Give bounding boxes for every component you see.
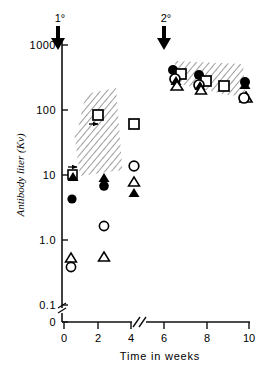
x-tick-6: 6 (161, 322, 167, 344)
y-tick-100: 100 (36, 104, 68, 116)
marker-open-circle (66, 262, 75, 271)
y-tick-1: 1.0 (39, 234, 68, 246)
x-axis: 0 2 4 6 8 10 Time in weeks (61, 317, 255, 362)
x-tick-label-2: 2 (95, 332, 101, 344)
data-point-group-week4 (129, 119, 140, 197)
marker-open-square (93, 110, 103, 120)
y-axis-title: Antibody liter (Kv) (14, 133, 27, 217)
data-point-group-week7 (168, 65, 186, 90)
secondary-immunization-arrow: 2° (157, 12, 171, 50)
hatched-band-primary-response (74, 88, 122, 176)
x-tick-2: 2 (95, 322, 101, 344)
marker-open-triangle (129, 177, 140, 186)
y-tick-label-1000: 1000 (30, 39, 56, 51)
marker-filled-circle (99, 181, 109, 191)
data-point-group-week1 (66, 170, 79, 272)
y-tick-label-0: 0 (49, 316, 56, 328)
marker-open-circle (129, 161, 139, 171)
marker-filled-triangle (99, 173, 110, 182)
x-tick-0: 0 (61, 322, 67, 344)
x-axis-title: Time in weeks (120, 350, 200, 362)
marker-open-triangle (66, 253, 77, 262)
y-tick-label-10: 10 (43, 169, 56, 181)
marker-open-circle (99, 221, 108, 230)
data-point-group-week9 (219, 81, 229, 91)
x-tick-8: 8 (204, 322, 210, 344)
y-tick-10: 10 (43, 169, 68, 181)
marker-filled-triangle (129, 188, 140, 197)
secondary-immunization-label: 2° (161, 12, 172, 24)
marker-open-triangle (99, 252, 110, 261)
marker-open-square (129, 119, 139, 129)
x-tick-label-8: 8 (204, 332, 210, 344)
antibody-titer-scatter-chart: 1000 100 10 1.0 0.1 0 Antibody (0, 0, 264, 369)
y-tick-label-0-1: 0.1 (39, 299, 56, 311)
marker-open-square (219, 81, 229, 91)
x-tick-label-6: 6 (161, 332, 167, 344)
chart-figure: 1000 100 10 1.0 0.1 0 Antibody (0, 0, 264, 369)
x-tick-label-0: 0 (61, 332, 67, 344)
y-tick-label-1: 1.0 (39, 234, 56, 246)
x-axis-break-marker (133, 317, 146, 327)
primary-immunization-label: 1° (55, 12, 66, 24)
x-tick-label-4: 4 (128, 332, 134, 344)
y-tick-label-100: 100 (36, 104, 56, 116)
marker-filled-circle (67, 194, 76, 203)
x-tick-10: 10 (243, 322, 255, 344)
marker-open-circle (239, 93, 249, 103)
x-tick-4: 4 (128, 322, 134, 344)
x-tick-label-10: 10 (243, 332, 255, 344)
y-axis: 1000 100 10 1.0 0.1 0 Antibody (14, 39, 68, 328)
